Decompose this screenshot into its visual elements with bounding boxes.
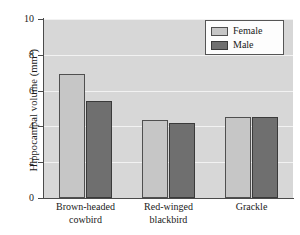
legend-item-male: Male [211, 38, 283, 52]
y-axis-tick [38, 55, 44, 56]
legend-item-female: Female [211, 24, 283, 38]
bar-chart: Hippocampal volume (mm3) 0246810 Brown-h… [0, 0, 300, 235]
x-axis-line [43, 198, 294, 199]
legend-swatch-female-icon [211, 27, 228, 36]
y-axis-tick-label: 8 [14, 49, 34, 60]
legend-label-male: Male [233, 40, 254, 50]
y-axis-tick-label: 2 [14, 156, 34, 167]
x-axis-label-line: cowbird [44, 214, 127, 227]
y-axis-tick [38, 19, 44, 20]
bar-female-2 [225, 117, 251, 198]
y-axis-tick-label: 0 [14, 192, 34, 203]
y-axis-tick [38, 198, 44, 199]
legend-swatch-male-icon [211, 41, 228, 50]
x-axis-label-line: Red-winged [127, 201, 210, 214]
bar-male-2 [252, 117, 278, 198]
y-axis-line [43, 18, 44, 199]
legend-label-female: Female [233, 26, 262, 36]
y-axis-tick-label: 4 [14, 120, 34, 131]
y-axis-tick [38, 162, 44, 163]
x-axis-label-line: Brown-headed [44, 201, 127, 214]
bar-male-1 [169, 123, 195, 198]
x-axis-label-line: Grackle [210, 201, 293, 214]
x-axis-label-0: Brown-headedcowbird [44, 201, 127, 226]
y-axis-tick [38, 126, 44, 127]
x-axis-label-2: Grackle [210, 201, 293, 214]
bar-female-1 [142, 120, 168, 198]
y-axis-title: Hippocampal volume (mm3) [27, 15, 40, 205]
bar-male-0 [86, 101, 112, 198]
x-axis-label-line: blackbird [127, 214, 210, 227]
y-axis-tick-label: 6 [14, 85, 34, 96]
bar-female-0 [59, 74, 85, 198]
y-axis-tick [38, 91, 44, 92]
x-axis-label-1: Red-wingedblackbird [127, 201, 210, 226]
y-axis-tick-label: 10 [14, 13, 34, 24]
y-axis-title-text: Hippocampal volume (mm [28, 56, 39, 171]
legend: Female Male [205, 20, 284, 55]
